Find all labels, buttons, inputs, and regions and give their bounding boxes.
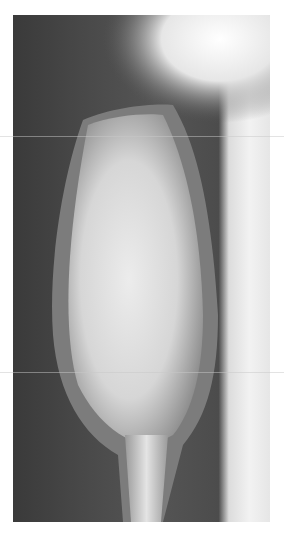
xray-image bbox=[13, 15, 270, 522]
scan-line bbox=[0, 136, 284, 137]
scan-line bbox=[0, 372, 284, 373]
bone-shaft bbox=[125, 435, 168, 522]
xray-drawing bbox=[13, 15, 270, 522]
